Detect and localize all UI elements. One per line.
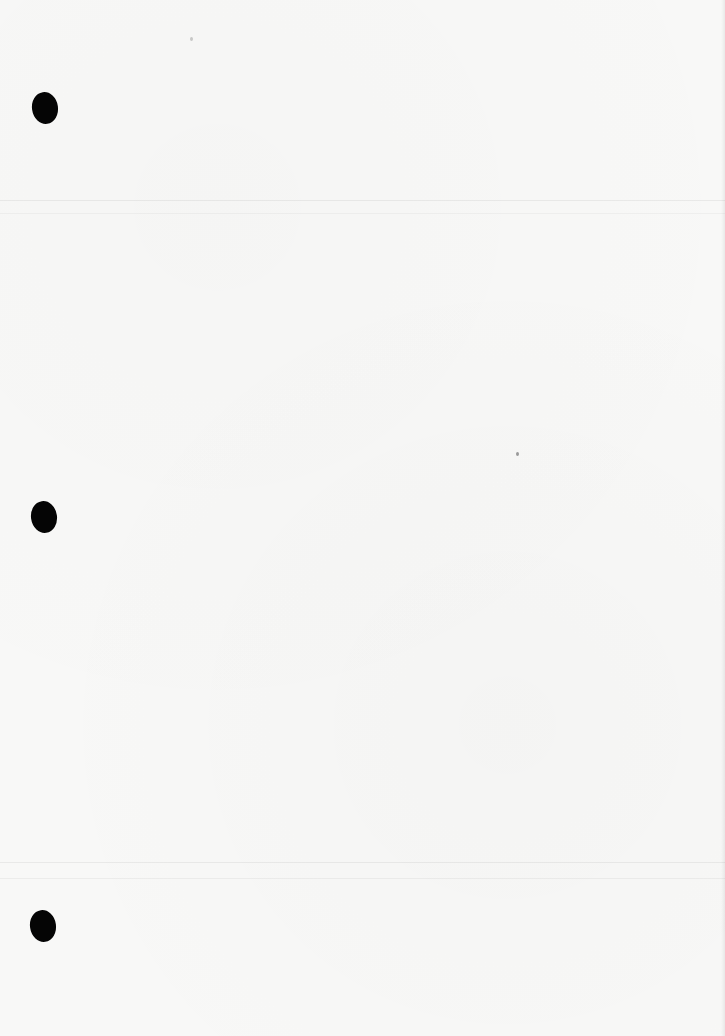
punch-hole-bottom xyxy=(28,908,58,943)
faint-rule-top-1 xyxy=(0,200,725,201)
punch-hole-middle xyxy=(29,499,59,534)
faint-rule-bottom-1 xyxy=(0,862,725,863)
scanned-page xyxy=(0,0,725,1036)
page-edge-shadow xyxy=(721,0,725,1036)
scan-speck xyxy=(190,37,193,41)
faint-rule-bottom-2 xyxy=(0,878,725,879)
punch-hole-top xyxy=(30,90,60,125)
scan-speck xyxy=(516,452,519,456)
faint-rule-top-2 xyxy=(0,213,725,214)
